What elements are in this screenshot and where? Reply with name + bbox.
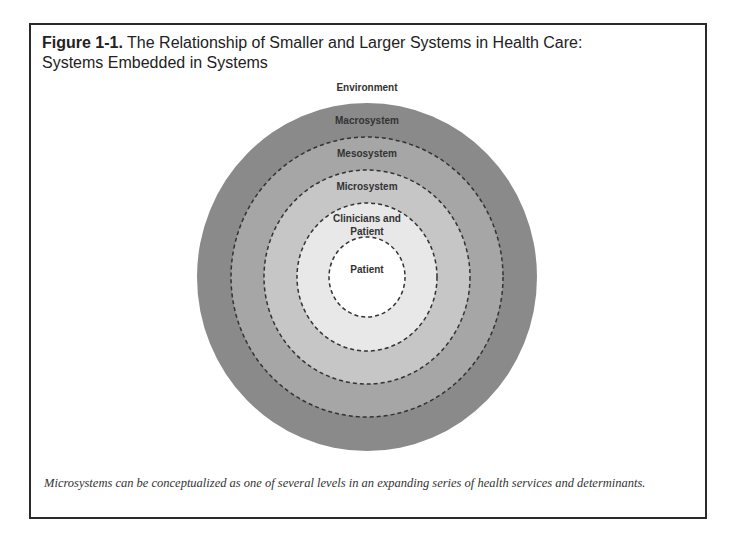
mesosystem-label: Mesosystem	[337, 148, 397, 159]
microsystem-label: Microsystem	[336, 181, 397, 192]
environment-label: Environment	[336, 82, 398, 93]
patient-label: Patient	[350, 264, 384, 275]
clinicians-label-line2: Patient	[350, 226, 384, 237]
clinicians-label-line1: Clinicians and	[333, 213, 401, 224]
macrosystem-label: Macrosystem	[335, 115, 399, 126]
patient-core	[329, 237, 405, 317]
nested-systems-diagram: Environment Macrosystem Mesosystem Micro…	[0, 0, 736, 535]
